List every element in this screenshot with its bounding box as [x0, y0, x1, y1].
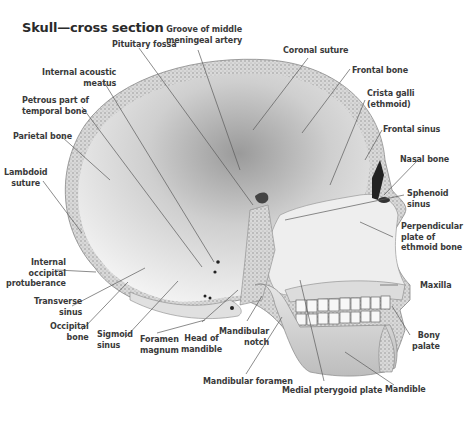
label-maxilla: Maxilla — [420, 281, 451, 292]
label-mandibular-foramen: Mandibular foramen — [203, 377, 293, 388]
label-groove-middle-meningeal-artery: Groove of middle meningeal artery — [166, 25, 242, 46]
label-occipital-bone: Occipital bone — [50, 322, 89, 343]
label-petrous-part-temporal-bone: Petrous part of temporal bone — [22, 96, 89, 117]
diagram-title: Skull—cross section — [22, 20, 164, 35]
skull-illustration — [0, 0, 475, 421]
label-transverse-sinus: Transverse sinus — [34, 297, 82, 318]
label-sigmoid-sinus: Sigmoid sinus — [97, 330, 133, 351]
label-nasal-bone: Nasal bone — [400, 155, 449, 166]
label-parietal-bone: Parietal bone — [13, 132, 72, 143]
label-lambdoid-suture: Lambdoid suture — [4, 168, 47, 189]
label-frontal-sinus: Frontal sinus — [383, 125, 440, 136]
label-foramen-magnum: Foramen magnum — [140, 335, 179, 356]
label-frontal-bone: Frontal bone — [352, 66, 408, 77]
label-perpendicular-plate-ethmoid: Perpendicular plate of ethmoid bone — [401, 222, 463, 254]
label-bony-palate: Bony palate — [412, 331, 440, 352]
label-head-of-mandible: Head of mandible — [181, 334, 222, 355]
label-medial-pterygoid-plate: Medial pterygoid plate — [282, 386, 382, 397]
label-mandible: Mandible — [385, 385, 426, 396]
label-internal-occipital-protuberance: Internal occipital protuberance — [6, 258, 66, 290]
label-sphenoid-sinus: Sphenoid sinus — [407, 189, 448, 210]
label-coronal-suture: Coronal suture — [283, 46, 348, 57]
label-mandibular-notch: Mandibular notch — [219, 327, 269, 348]
label-internal-acoustic-meatus: Internal acoustic meatus — [42, 68, 116, 89]
skull-diagram: Skull—cross section Pituitary fossa Groo… — [0, 0, 475, 421]
label-crista-galli: Crista galli (ethmoid) — [367, 89, 414, 110]
